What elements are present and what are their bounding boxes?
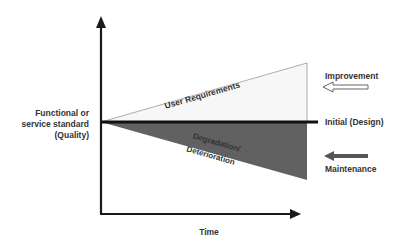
y-axis-label-line-1: Functional or — [35, 108, 90, 118]
y-axis-label-line-2: service standard — [21, 119, 89, 129]
y-axis-label-line-3: (Quality) — [55, 130, 90, 140]
improvement-label: Improvement — [325, 71, 379, 81]
maintenance-label: Maintenance — [325, 164, 377, 174]
improvement-arrow-icon — [323, 82, 368, 92]
initial-design-label: Initial (Design) — [325, 117, 384, 127]
maintenance-arrow-icon — [324, 151, 368, 161]
y-axis-arrowhead-icon — [96, 16, 106, 28]
quality-over-time-diagram: User Requirements Degradation/ Deteriora… — [0, 0, 402, 250]
x-axis-arrowhead-icon — [290, 209, 301, 219]
x-axis-label: Time — [199, 227, 219, 237]
